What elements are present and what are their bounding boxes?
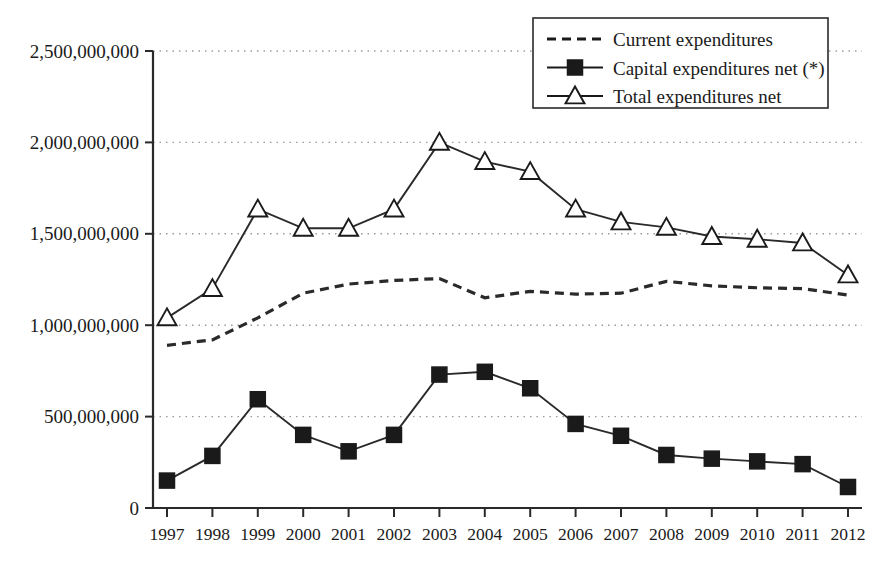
data-point-marker xyxy=(158,308,177,325)
x-tick-label: 2001 xyxy=(331,524,366,544)
chart-legend: Current expendituresCapital expenditures… xyxy=(533,18,828,108)
x-tick-label: 2003 xyxy=(422,524,457,544)
data-point-marker xyxy=(296,427,311,442)
data-point-marker xyxy=(839,265,858,282)
data-point-marker xyxy=(523,381,538,396)
series-capital-expenditures-net xyxy=(160,364,856,494)
data-point-marker xyxy=(659,447,674,462)
x-tick-label: 2010 xyxy=(740,524,775,544)
x-tick-label: 2012 xyxy=(831,524,866,544)
data-point-marker xyxy=(430,133,449,150)
data-point-marker xyxy=(795,457,810,472)
y-tick-label: 1,500,000,000 xyxy=(30,223,139,244)
y-tick-label: 1,000,000,000 xyxy=(30,315,139,336)
x-tick-label: 2007 xyxy=(604,524,639,544)
x-tick-label: 2008 xyxy=(649,524,684,544)
y-axis-tick-marks xyxy=(145,51,153,508)
data-point-marker xyxy=(475,152,494,169)
y-tick-label: 2,500,000,000 xyxy=(30,41,139,62)
data-point-marker xyxy=(341,444,356,459)
series-total-expenditures-net xyxy=(158,133,858,325)
data-point-marker xyxy=(385,200,404,217)
expenditures-line-chart: 2,500,000,0002,000,000,0001,500,000,0001… xyxy=(0,0,877,569)
data-point-marker xyxy=(432,367,447,382)
data-point-marker xyxy=(387,427,402,442)
data-point-marker xyxy=(339,219,358,236)
legend-item-label: Total expenditures net xyxy=(613,86,782,107)
y-tick-label: 2,000,000,000 xyxy=(30,132,139,153)
data-point-marker xyxy=(205,448,220,463)
y-tick-label: 0 xyxy=(130,498,140,519)
data-point-marker xyxy=(248,200,267,217)
y-tick-label: 500,000,000 xyxy=(44,406,139,427)
x-tick-label: 2005 xyxy=(513,524,548,544)
series-current-expenditures xyxy=(167,279,848,346)
data-point-marker xyxy=(568,416,583,431)
x-tick-label: 2004 xyxy=(467,524,502,544)
data-point-marker xyxy=(704,451,719,466)
series-path xyxy=(167,142,848,317)
x-tick-label: 2000 xyxy=(286,524,321,544)
series-path xyxy=(167,279,848,346)
data-point-marker xyxy=(250,392,265,407)
data-point-marker xyxy=(614,428,629,443)
x-tick-label: 2009 xyxy=(694,524,729,544)
x-tick-label: 2006 xyxy=(558,524,593,544)
data-point-marker xyxy=(203,279,222,296)
data-point-marker xyxy=(294,219,313,236)
legend-filled-square-icon xyxy=(568,60,583,75)
series-path xyxy=(167,372,848,487)
x-axis-tick-marks xyxy=(167,508,848,517)
chart-container: 2,500,000,0002,000,000,0001,500,000,0001… xyxy=(0,0,877,569)
y-axis-tick-labels: 2,500,000,0002,000,000,0001,500,000,0001… xyxy=(30,41,139,519)
data-point-marker xyxy=(160,473,175,488)
data-point-marker xyxy=(750,454,765,469)
legend-item-label: Capital expenditures net (*) xyxy=(613,58,825,80)
legend-item-label: Current expenditures xyxy=(613,29,773,50)
x-axis-tick-labels: 1997199819992000200120022003200420052006… xyxy=(150,524,866,544)
x-tick-label: 1998 xyxy=(195,524,230,544)
x-tick-label: 1997 xyxy=(150,524,185,544)
x-tick-label: 2002 xyxy=(377,524,412,544)
data-point-marker xyxy=(477,364,492,379)
x-tick-label: 1999 xyxy=(240,524,275,544)
data-point-marker xyxy=(841,479,856,494)
x-tick-label: 2011 xyxy=(785,524,819,544)
data-series xyxy=(158,133,858,495)
data-point-marker xyxy=(566,200,585,217)
